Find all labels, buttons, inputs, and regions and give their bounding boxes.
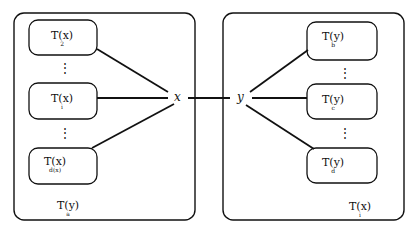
y-node: y (237, 91, 244, 103)
right-ellipsis-2: ⋮ (339, 127, 351, 139)
edge-left-bottom-to-x (92, 104, 174, 148)
x-node: x (174, 91, 181, 103)
edge-left-top-to-x (97, 49, 168, 92)
right-box-middle-label: T(y) c (322, 94, 344, 105)
left-ellipsis-1: ⋮ (59, 62, 71, 74)
right-box-bottom-label: T(y) d (322, 157, 344, 168)
right-group-label: T(x) i (349, 201, 371, 212)
left-group-box (14, 13, 195, 220)
left-box-bottom-label: T(x) d(x) (44, 156, 66, 167)
left-group-label: T(y) a (57, 200, 79, 211)
left-ellipsis-2: ⋮ (59, 127, 71, 139)
right-box-top-label: T(y) b (322, 31, 344, 42)
edge-y-to-right-bottom (246, 105, 314, 149)
left-box-top-label: T(x) 2 (51, 30, 73, 41)
edge-y-to-right-top (250, 50, 308, 92)
left-box-middle-label: T(x) i (51, 93, 73, 104)
right-ellipsis-1: ⋮ (339, 67, 351, 79)
